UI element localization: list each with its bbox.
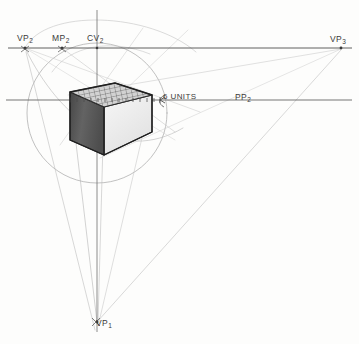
vp3-text: VP <box>330 34 342 44</box>
ray-upper-cross <box>120 30 188 95</box>
vp2-subscript: 2 <box>29 37 33 44</box>
pp2-subscript: 2 <box>247 96 251 103</box>
point-markers <box>24 47 343 324</box>
pp2-text: PP <box>235 92 247 102</box>
cv2-text: CV <box>87 33 100 43</box>
mp2-subscript: 2 <box>66 37 70 44</box>
cv2-subscript: 2 <box>100 37 104 44</box>
vp2-text: VP <box>17 33 29 43</box>
perspective-cube <box>70 83 152 155</box>
mp2-text: MP <box>52 33 66 43</box>
six-units-annotation: 6 UNITS <box>163 92 196 101</box>
vp1-subscript: 1 <box>108 322 112 329</box>
perspective-drawing-canvas: VP2 MP2 CV2 VP3 VP1 6 UNITS PP2 <box>0 0 359 344</box>
vp1-text: VP <box>96 318 108 328</box>
construction-drawing-svg <box>0 0 359 344</box>
vp3-subscript: 3 <box>342 38 346 45</box>
vanishing-point-3-label: VP3 <box>330 34 346 44</box>
vanishing-point-1-label: VP1 <box>96 318 112 328</box>
vanishing-point-2-label: VP2 <box>17 33 33 43</box>
measuring-point-2-label: MP2 <box>52 33 70 43</box>
construction-lines-group <box>25 20 341 330</box>
vp3-point-marker <box>340 47 343 50</box>
center-of-vision-label: CV2 <box>87 33 104 43</box>
cv2-point-marker <box>96 47 99 50</box>
picture-plane-2-label: PP2 <box>235 92 251 102</box>
